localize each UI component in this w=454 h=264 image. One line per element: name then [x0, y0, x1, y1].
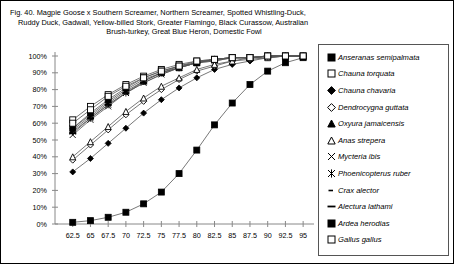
x-tick-label: 70: [122, 231, 130, 240]
x-tick-label: 85: [228, 231, 236, 240]
y-tick-label: 10%: [33, 203, 48, 212]
marker-open-triangle: [141, 95, 147, 101]
marker-open-square: [70, 120, 76, 126]
marker-filled-square: [229, 100, 235, 106]
marker-open-square: [247, 55, 253, 61]
legend-long-dash-icon: [325, 202, 338, 211]
x-tick-label: 65: [86, 231, 94, 240]
marker-filled-diamond: [176, 85, 182, 91]
y-tick-label: 90%: [33, 68, 48, 77]
marker-open-triangle: [158, 83, 164, 89]
x-tick-label: 92.5: [278, 231, 292, 240]
marker-open-square: [229, 55, 235, 61]
marker-open-triangle: [123, 108, 129, 114]
x-tick-label: 75: [157, 231, 165, 240]
legend-item-label: Anas strepera: [338, 136, 385, 145]
series-line: [73, 58, 303, 223]
series-line: [73, 56, 303, 123]
legend-item-label: Chauna chavaria: [338, 86, 395, 95]
marker-filled-square: [123, 209, 129, 215]
marker-open-square: [282, 53, 288, 59]
marker-filled-square: [212, 122, 218, 128]
legend-filled-square-icon: [325, 219, 338, 228]
legend-open-diamond-icon: [325, 103, 338, 112]
legend-item: Mycteria ibis: [325, 149, 448, 166]
legend-item: Chauna chavaria: [325, 82, 448, 99]
legend-small-dash-icon: [325, 186, 338, 195]
legend-open-square-icon: [325, 69, 338, 78]
caption-line-1: Fig. 40. Magpie Goose x Southern Screame…: [6, 8, 362, 18]
marker-filled-square: [265, 68, 271, 74]
legend-item-label: Gallus gallus: [338, 235, 381, 244]
legend-item: Phoenicopterus ruber: [325, 165, 448, 182]
legend-item: Dendrocygna guttata: [325, 99, 448, 116]
marker-open-square: [176, 63, 182, 69]
marker-open-square: [105, 93, 111, 99]
marker-filled-square: [158, 189, 164, 195]
x-tick-label: 80: [193, 231, 201, 240]
line-chart: 0%10%20%30%40%50%60%70%80%90%100%62.5656…: [0, 46, 318, 261]
legend-item: Gallus gallus: [325, 232, 448, 249]
legend-x-star-icon: [325, 169, 338, 178]
legend-x-cross-icon: [325, 152, 338, 161]
figure-caption: Fig. 40. Magpie Goose x Southern Screame…: [6, 8, 362, 37]
x-tick-label: 90: [264, 231, 272, 240]
y-tick-label: 60%: [33, 119, 48, 128]
legend-item: Alectura lathami: [325, 198, 448, 215]
marker-open-square: [212, 56, 218, 62]
marker-filled-square: [282, 60, 288, 66]
y-tick-label: 50%: [33, 136, 48, 145]
legend-filled-square-icon: [325, 53, 338, 62]
legend-item: Oxyura jamaicensis: [325, 115, 448, 132]
x-tick-label: 72.5: [137, 231, 151, 240]
marker-open-triangle: [176, 75, 182, 81]
legend-open-triangle-icon: [325, 136, 338, 145]
series-gallus-gallus: [70, 53, 306, 126]
caption-line-2: Ruddy Duck, Gadwall, Yellow-billed Stork…: [6, 18, 362, 28]
legend-item-label: Oxyura jamaicensis: [338, 119, 404, 128]
marker-filled-square: [141, 201, 147, 207]
marker-filled-diamond: [70, 169, 76, 175]
marker-filled-diamond: [194, 75, 200, 81]
x-tick-label: 62.5: [66, 231, 80, 240]
legend-open-square-icon: [325, 235, 338, 244]
legend-item: Anas strepera: [325, 132, 448, 149]
legend-filled-triangle-icon: [325, 119, 338, 128]
marker-filled-square: [70, 219, 76, 225]
x-tick-label: 77.5: [172, 231, 186, 240]
legend-item-label: Chauna torquata: [338, 69, 395, 78]
y-tick-label: 70%: [33, 102, 48, 111]
y-tick-label: 20%: [33, 186, 48, 195]
y-tick-label: 30%: [33, 169, 48, 178]
x-tick-label: 67.5: [101, 231, 115, 240]
marker-open-square: [265, 53, 271, 59]
marker-filled-square: [176, 171, 182, 177]
marker-filled-square: [87, 218, 93, 224]
marker-filled-square: [247, 82, 253, 88]
legend-item: Crax alector: [325, 182, 448, 199]
legend-item: Chauna torquata: [325, 66, 448, 83]
marker-open-square: [141, 75, 147, 81]
series-anseranas-semipalmata: [70, 55, 306, 226]
marker-open-square: [87, 107, 93, 113]
y-tick-label: 0%: [37, 220, 48, 229]
marker-filled-diamond: [158, 97, 164, 103]
legend-item: Anseranas semipalmata: [325, 49, 448, 66]
legend-item: Ardea herodias: [325, 215, 448, 232]
legend-item-label: Phoenicopterus ruber: [338, 169, 411, 178]
marker-filled-square: [105, 214, 111, 220]
chart-plot-area: 0%10%20%30%40%50%60%70%80%90%100%62.5656…: [0, 46, 318, 261]
marker-open-square: [194, 58, 200, 64]
y-tick-label: 80%: [33, 85, 48, 94]
x-tick-label: 87.5: [243, 231, 257, 240]
chart-legend: Anseranas semipalmataChauna torquataChau…: [318, 44, 449, 256]
legend-item-label: Anseranas semipalmata: [338, 53, 419, 62]
legend-item-label: Dendrocygna guttata: [338, 103, 409, 112]
marker-open-square: [300, 53, 306, 59]
legend-item-label: Alectura lathami: [338, 202, 392, 211]
legend-item-label: Ardea herodias: [338, 219, 390, 228]
marker-open-square: [123, 83, 129, 89]
legend-filled-diamond-icon: [325, 86, 338, 95]
x-tick-label: 95: [299, 231, 307, 240]
marker-open-square: [158, 68, 164, 74]
